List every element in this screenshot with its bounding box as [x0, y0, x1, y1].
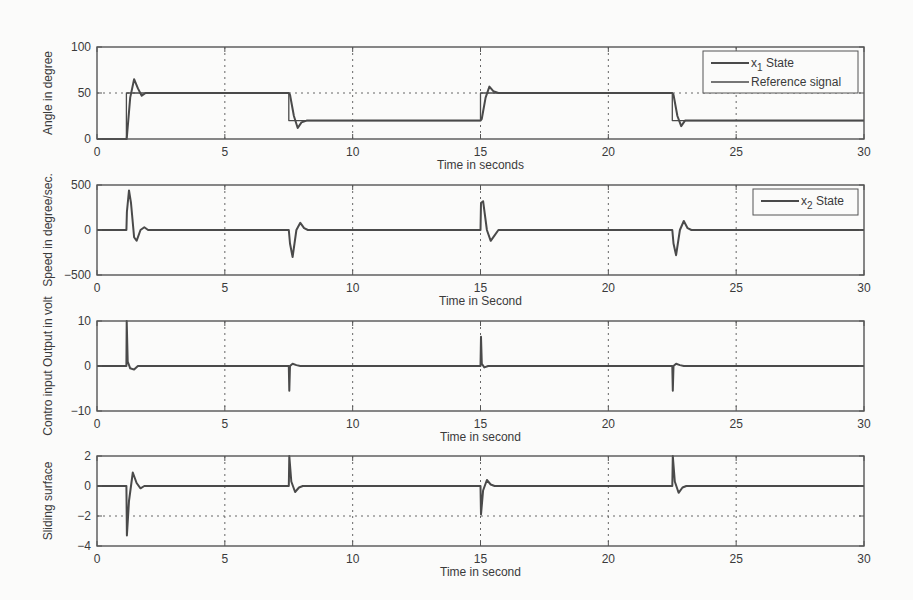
- y-tick-label: −10: [71, 404, 92, 418]
- y-tick-label: 0: [84, 359, 91, 373]
- x-tick-label: 10: [346, 417, 360, 431]
- x-tick-label: 20: [602, 552, 616, 566]
- x-tick-label: 30: [857, 281, 871, 295]
- legend: x2 State: [753, 189, 858, 215]
- figure: 051015202530050100Time in secondsAngle i…: [0, 0, 913, 600]
- y-tick-label: −2: [77, 509, 91, 523]
- x-tick-label: 5: [221, 552, 228, 566]
- x-tick-label: 20: [602, 145, 616, 159]
- legend-label: Reference signal: [751, 75, 841, 89]
- y-tick-label: 50: [78, 86, 92, 100]
- y-tick-label: 500: [71, 178, 91, 192]
- x-tick-label: 0: [94, 552, 101, 566]
- subplot-3: 051015202530−10010Time in secondContro i…: [41, 296, 871, 444]
- series-line-1: [97, 321, 864, 391]
- y-tick-label: 10: [78, 314, 92, 328]
- x-tick-label: 0: [94, 417, 101, 431]
- x-tick-label: 0: [94, 281, 101, 295]
- x-tick-label: 0: [94, 145, 101, 159]
- subplot-4: 051015202530−4−202Time in secondSliding …: [41, 449, 871, 579]
- y-tick-label: 0: [84, 132, 91, 146]
- y-tick-label: 100: [71, 40, 91, 54]
- x-tick-label: 15: [474, 281, 488, 295]
- x-tick-label: 5: [221, 145, 228, 159]
- x-tick-label: 30: [857, 552, 871, 566]
- x-axis-label: Time in second: [440, 565, 521, 579]
- y-tick-label: −4: [77, 539, 91, 553]
- y-axis-label: Sliding surface: [41, 461, 55, 540]
- x-tick-label: 25: [729, 552, 743, 566]
- y-axis-label: Speed in degree/sec.: [41, 173, 55, 286]
- x-axis-label: Time in seconds: [437, 158, 524, 172]
- x-tick-label: 30: [857, 145, 871, 159]
- x-tick-label: 30: [857, 417, 871, 431]
- series-line-1: [97, 190, 864, 257]
- x-tick-label: 25: [729, 145, 743, 159]
- legend: x1 StateReference signal: [703, 51, 858, 93]
- subplot-1: 051015202530050100Time in secondsAngle i…: [41, 40, 871, 172]
- x-tick-label: 10: [346, 145, 360, 159]
- x-tick-label: 5: [221, 417, 228, 431]
- y-tick-label: 0: [84, 223, 91, 237]
- y-axis-label: Angle in degree: [41, 51, 55, 135]
- x-tick-label: 10: [346, 552, 360, 566]
- y-tick-label: 0: [84, 479, 91, 493]
- x-tick-label: 15: [474, 552, 488, 566]
- x-tick-label: 20: [602, 417, 616, 431]
- x-tick-label: 10: [346, 281, 360, 295]
- x-tick-label: 15: [474, 417, 488, 431]
- x-tick-label: 15: [474, 145, 488, 159]
- x-tick-label: 25: [729, 417, 743, 431]
- x-tick-label: 5: [221, 281, 228, 295]
- x-axis-label: Time in second: [440, 430, 521, 444]
- y-axis-label: Contro input Output in volt: [41, 296, 55, 436]
- y-tick-label: 2: [84, 449, 91, 463]
- x-axis-label: Time in Second: [439, 294, 522, 308]
- x-tick-label: 20: [602, 281, 616, 295]
- x-tick-label: 25: [729, 281, 743, 295]
- subplot-2: 051015202530−5000500Time in SecondSpeed …: [41, 173, 871, 308]
- y-tick-label: −500: [64, 268, 91, 282]
